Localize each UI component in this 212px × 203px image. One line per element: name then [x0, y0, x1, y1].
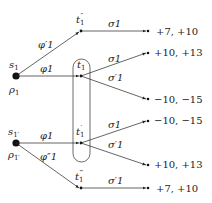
- label-t1p: t1′: [76, 124, 85, 139]
- information-set-oval: [73, 59, 90, 162]
- payoff-label: −10, −15: [154, 115, 203, 126]
- edge-label-sigma1-prime: σ′1: [108, 139, 123, 150]
- leaf-node: [147, 120, 150, 123]
- label-s1p: s1′: [8, 126, 20, 139]
- label-t1pp: t1″: [76, 12, 85, 27]
- leaf-node: [147, 164, 150, 167]
- leaf-node: [147, 98, 150, 101]
- payoff-label: +10, +13: [154, 159, 203, 170]
- leaf-node: [147, 52, 150, 55]
- label-rho1: ρ1: [8, 84, 19, 97]
- edge-label-sigma1: σ1: [108, 53, 121, 64]
- payoff-label: +7, +10: [156, 183, 198, 194]
- edge-label-sigma1-prime: σ′1: [108, 72, 123, 83]
- edge-label-phi1: φ1: [40, 63, 53, 74]
- edge-label-phi1-b: φ1: [40, 130, 53, 141]
- edge-label-sigma1-prime: σ′1: [108, 175, 123, 186]
- game-tree-diagram: s1 ρ1 s1′ ρ1′ t1″ t1 t1′ t1‴ φ′1 φ1 φ1 φ…: [0, 0, 212, 203]
- payoff-label: −10, −15: [154, 94, 203, 105]
- payoff-label: +10, +13: [154, 47, 203, 58]
- edge-label-phi1-dprime: φ″1: [40, 151, 57, 162]
- payoff-label: +7, +10: [156, 26, 198, 37]
- edge-label-sigma1: σ1: [108, 18, 121, 29]
- label-rho1p: ρ1′: [7, 149, 20, 162]
- edge-label-phi1-prime: φ′1: [38, 39, 54, 50]
- edge-s1p-t1ppp: [16, 143, 79, 188]
- leaf-node: [147, 30, 150, 33]
- label-t1: t1: [77, 59, 86, 72]
- label-s1: s1: [9, 59, 19, 72]
- edge-label-sigma1: σ1: [108, 119, 121, 130]
- leaf-node: [147, 187, 150, 190]
- label-t1ppp: t1‴: [75, 169, 84, 184]
